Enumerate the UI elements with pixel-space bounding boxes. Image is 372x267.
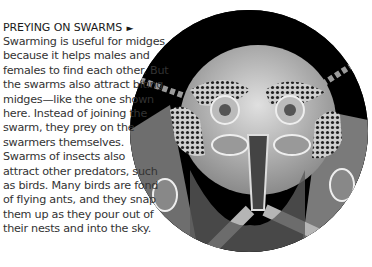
triangle-right-icon: ► (126, 23, 133, 33)
section-heading: PREYING ON SWARMS ► (3, 21, 183, 35)
heading-text: PREYING ON SWARMS (3, 21, 122, 34)
paragraph-2: Swarms of insects also attract other pre… (3, 150, 183, 236)
paragraph-1: Swarming is useful for midges because it… (3, 35, 183, 150)
article-text: PREYING ON SWARMS ► Swarming is useful f… (3, 21, 183, 237)
